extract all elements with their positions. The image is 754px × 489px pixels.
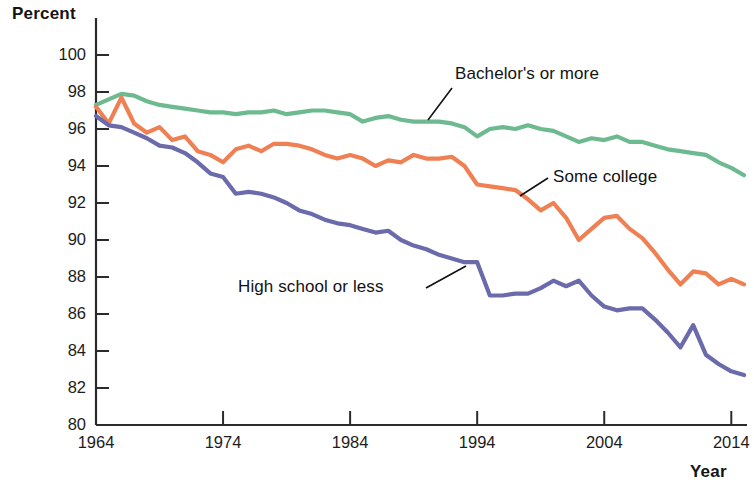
y-tick-label: 80 [40, 415, 86, 434]
series-label-high-school: High school or less [238, 277, 384, 297]
y-tick-label: 82 [40, 378, 86, 397]
x-axis-ticks [96, 411, 731, 425]
series-line [96, 98, 744, 285]
series-lines [96, 94, 744, 375]
series-label-bachelors: Bachelor's or more [455, 64, 599, 84]
y-tick-label: 94 [40, 156, 86, 175]
y-tick-label: 90 [40, 230, 86, 249]
y-tick-label: 88 [40, 267, 86, 286]
y-tick-label: 92 [40, 193, 86, 212]
x-tick-label: 2004 [569, 433, 639, 452]
y-tick-label: 86 [40, 304, 86, 323]
y-tick-label: 100 [40, 45, 86, 64]
series-line [96, 94, 744, 175]
y-tick-label: 84 [40, 341, 86, 360]
series-label-some-college: Some college [553, 167, 657, 187]
x-tick-label: 1964 [61, 433, 131, 452]
x-tick-label: 1974 [188, 433, 258, 452]
y-tick-label: 98 [40, 82, 86, 101]
x-tick-label: 2014 [696, 433, 754, 452]
axis-lines [96, 18, 747, 425]
y-tick-label: 96 [40, 119, 86, 138]
x-tick-label: 1984 [315, 433, 385, 452]
x-tick-label: 1994 [442, 433, 512, 452]
